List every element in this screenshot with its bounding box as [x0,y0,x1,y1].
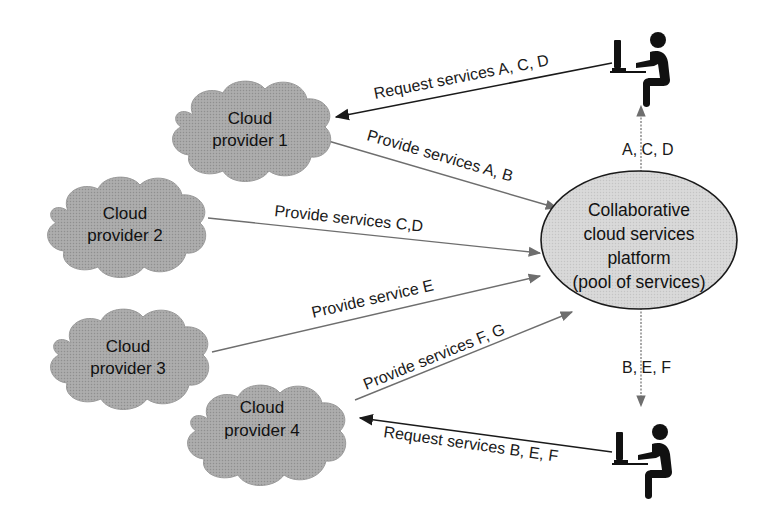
user-bottom [612,424,672,499]
cloud-provider-3-line-2: provider 3 [90,359,166,378]
label-request-bottom: Request services B, E, F [383,423,560,464]
label-deliver-top: A, C, D [622,141,674,158]
cloud-provider-4-line-2: provider 4 [224,421,300,440]
collaborative-cloud-diagram: Collaborative cloud services platform (p… [0,0,776,509]
cloud-provider-4-line-1: Cloud [240,398,284,417]
cloud-provider-3-line-1: Cloud [106,337,150,356]
user-top [610,32,670,107]
label-provide-2: Provide services C,D [274,202,424,235]
user-at-computer-icon [612,424,672,499]
platform-line-3: platform [607,248,670,268]
cloud-provider-1-line-1: Cloud [228,109,272,128]
cloud-provider-4: Cloud provider 4 [188,385,346,485]
cloud-provider-2-line-1: Cloud [103,204,147,223]
platform-line-2: cloud services [584,224,695,244]
cloud-provider-1-line-2: provider 1 [212,131,288,150]
provide-arrow-4 [355,312,572,400]
platform-node: Collaborative cloud services platform (p… [541,171,737,309]
user-at-computer-icon [610,32,670,107]
platform-line-4: (pool of services) [572,272,705,292]
platform-line-1: Collaborative [588,200,690,220]
cloud-provider-2: Cloud provider 2 [48,177,206,277]
label-request-top: Request services A, C, D [372,51,550,102]
cloud-provider-1: Cloud provider 1 [173,81,331,181]
cloud-provider-3: Cloud provider 3 [51,309,209,409]
label-provide-4: Provide services F, G [361,320,508,392]
cloud-provider-2-line-2: provider 2 [87,226,163,245]
label-provide-1: Provide services A, B [365,127,515,185]
label-deliver-bottom: B, E, F [622,359,671,376]
